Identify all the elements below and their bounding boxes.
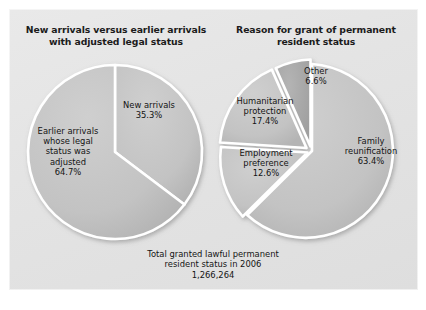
slice-label-employment-preference: Employment preference 12.6%	[226, 148, 306, 179]
slice-label-family-reunification: Family reunification 63.4%	[334, 136, 408, 167]
slice-label-new-arrivals: New arrivals 35.3%	[112, 100, 186, 120]
chart-title-arrivals: New arrivals versus earlier arrivals wit…	[18, 24, 214, 47]
chart-title-reason: Reason for grant of permanent resident s…	[218, 24, 414, 47]
figure-container: New arrivals versus earlier arrivals wit…	[0, 0, 426, 310]
slice-label-other: Other 6.6%	[295, 66, 337, 86]
chart-caption-total: Total granted lawful permanent resident …	[113, 249, 313, 280]
slice-label-humanitarian-protection: Humanitarian protection 17.4%	[226, 96, 304, 127]
slice-label-earlier-arrivals: Earlier arrivals whose legal status was …	[28, 126, 108, 177]
